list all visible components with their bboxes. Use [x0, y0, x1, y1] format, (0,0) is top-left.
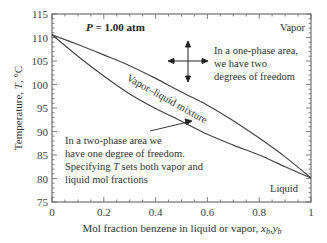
y-tick-label: 90: [37, 126, 49, 138]
degrees-of-freedom-arrows-icon: [168, 41, 208, 82]
x-tick-label: 0.4: [149, 206, 163, 218]
x-tick-label: 1: [308, 206, 314, 218]
two-phase-annotation: In a two-phase area we have one degree o…: [65, 135, 206, 185]
y-tick-label: 75: [37, 196, 49, 208]
vapor-region-label: Vapor: [280, 22, 306, 33]
y-tick-label: 85: [37, 149, 49, 161]
x-axis-title: Mol fraction benzene in liquid or vapor,…: [82, 222, 281, 236]
x-tick-labels: 00.20.40.60.81: [49, 206, 314, 218]
y-tick-label: 100: [32, 79, 49, 91]
x-tick-label: 0: [49, 206, 55, 218]
x-tick-label: 0.6: [201, 206, 215, 218]
y-tick-label: 105: [32, 55, 49, 67]
y-tick-label: 95: [37, 102, 49, 114]
chart-title: P = 1.00 atm: [86, 21, 145, 33]
phase-diagram: 7580859095100105110115 00.20.40.60.81 P …: [0, 0, 327, 243]
y-tick-label: 115: [32, 8, 49, 20]
pointer-arrow-icon: [150, 119, 192, 131]
x-tick-label: 0.8: [252, 206, 266, 218]
liquid-region-label: Liquid: [270, 183, 299, 194]
one-phase-annotation: In a one-phase area, we have two degrees…: [214, 45, 301, 82]
x-tick-label: 0.2: [97, 206, 111, 218]
y-tick-label: 110: [32, 32, 49, 44]
y-tick-label: 80: [37, 173, 49, 185]
y-axis-title: Temperature, T, °C: [12, 66, 24, 150]
y-tick-labels: 7580859095100105110115: [32, 8, 49, 208]
